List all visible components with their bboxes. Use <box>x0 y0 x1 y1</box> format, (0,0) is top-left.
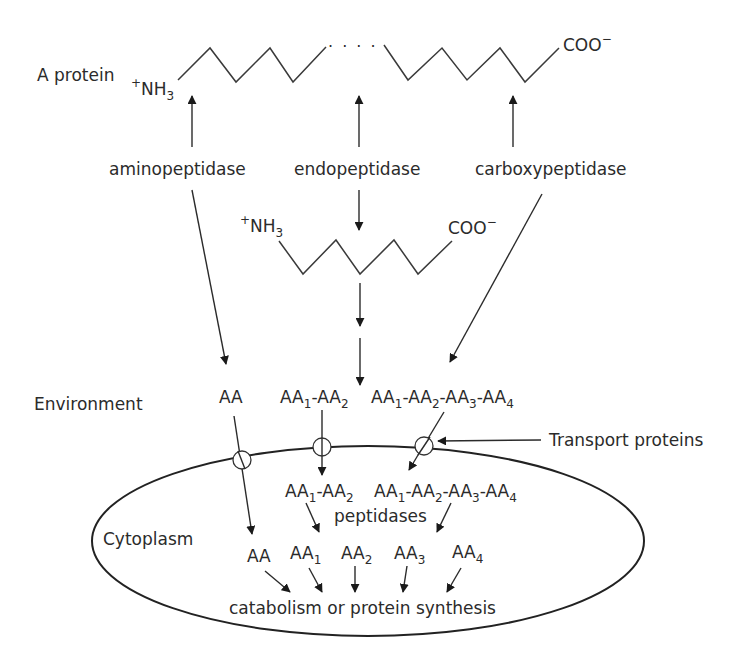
protein-degradation-diagram: A protein +NH3 . . . . COO− aminopeptida… <box>0 0 741 658</box>
aminopeptidase-to-aa-arrow <box>192 190 226 364</box>
cyto-aa-1: AA1 <box>290 543 321 567</box>
chain-ellipsis: . . . . <box>328 32 378 51</box>
peptidases-label: peptidases <box>334 506 427 526</box>
env-dipeptide: AA1-AA2 <box>280 387 349 411</box>
cyto-aa-4: AA4 <box>452 542 483 566</box>
c-terminus-label: COO− <box>563 32 612 55</box>
fragment-n-terminus: +NH3 <box>240 213 283 240</box>
cyto-aa-0: AA <box>247 546 271 566</box>
transport-proteins-label: Transport proteins <box>548 430 704 450</box>
cyto-tetrapeptide: AA1-AA2-AA3-AA4 <box>374 481 517 505</box>
protein-chain-right <box>384 45 559 82</box>
n-terminus-label: +NH3 <box>131 76 174 103</box>
cytoplasm-label: Cytoplasm <box>103 529 193 549</box>
cyto-aa-2: AA2 <box>341 543 372 567</box>
aa-transport-arrow <box>234 416 252 534</box>
cyto-aa-3: AA3 <box>394 543 425 567</box>
transport-proteins-pointer <box>438 440 541 441</box>
fragment-chain <box>279 240 452 274</box>
dipeptide-cleave-arrow <box>306 503 319 532</box>
fate-label: catabolism or protein synthesis <box>229 598 496 618</box>
aa-3-fate-arrow <box>403 566 407 592</box>
protein-label: A protein <box>37 65 114 85</box>
env-aa: AA <box>219 387 243 407</box>
protein-chain-left <box>178 47 326 82</box>
cyto-dipeptide: AA1-AA2 <box>285 481 354 505</box>
endopeptidase-label: endopeptidase <box>294 159 420 179</box>
environment-label: Environment <box>34 394 143 414</box>
aa-1-fate-arrow <box>309 568 322 592</box>
tetrapeptide-cleave-arrow <box>437 503 451 532</box>
aa-4-fate-arrow <box>447 568 461 592</box>
fragment-c-terminus: COO− <box>448 215 497 238</box>
aa-0-fate-arrow <box>265 571 290 592</box>
carboxypeptidase-label: carboxypeptidase <box>475 159 627 179</box>
env-tetrapeptide: AA1-AA2-AA3-AA4 <box>371 387 514 411</box>
aminopeptidase-label: aminopeptidase <box>109 159 246 179</box>
